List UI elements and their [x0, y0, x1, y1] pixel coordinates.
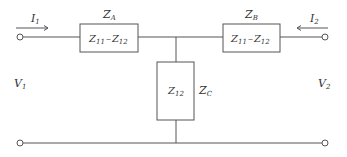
t-network-diagram: I1 I2 ZA Z11–Z12 ZB Z11–Z12 Z12 ZC V1 V2: [0, 0, 347, 157]
current-label-2: I2: [309, 12, 319, 26]
impedance-value-b: Z11–Z12: [230, 33, 270, 46]
terminal-2-bottom: [322, 140, 328, 146]
terminal-2-top: [322, 34, 328, 40]
terminal-1-top: [17, 34, 23, 40]
current-label-1: I1: [30, 12, 40, 26]
voltage-label-1: V1: [14, 77, 26, 91]
impedance-value-c: Z12: [167, 85, 184, 98]
impedance-name-b: ZB: [244, 8, 258, 22]
impedance-name-c: ZC: [198, 84, 213, 98]
impedance-value-a: Z11–Z12: [88, 33, 128, 46]
impedance-name-a: ZA: [102, 8, 116, 22]
voltage-label-2: V2: [318, 77, 331, 91]
terminal-1-bottom: [17, 140, 23, 146]
